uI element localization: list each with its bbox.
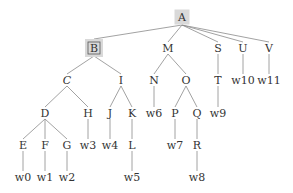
tree-edge-D-E xyxy=(23,119,45,139)
node-label: U xyxy=(238,42,247,55)
tree-node-L: L xyxy=(128,139,136,152)
tree-node-B: B xyxy=(85,39,103,57)
tree-node-J: J xyxy=(107,107,112,120)
node-label: w6 xyxy=(146,107,162,120)
tree-node-w6: w6 xyxy=(146,107,162,120)
tree-node-S: S xyxy=(214,42,222,55)
tree-edge-A-B xyxy=(94,25,182,39)
node-label: I xyxy=(119,74,123,87)
node-label: Q xyxy=(192,107,201,120)
syntax-tree-diagram: ABMSUVCINOTw10w11DHJKw6PQw9EFGw3w4Lw7Rw0… xyxy=(0,0,293,193)
node-label: D xyxy=(41,107,50,120)
node-label: R xyxy=(193,139,202,152)
node-label: w0 xyxy=(15,171,31,184)
tree-edge-A-M xyxy=(168,25,182,42)
tree-edge-C-D xyxy=(45,86,67,107)
tree-node-w7: w7 xyxy=(167,139,183,152)
tree-node-U: U xyxy=(238,42,247,55)
tree-node-R: R xyxy=(193,139,202,152)
node-label: L xyxy=(128,139,136,152)
node-label: w2 xyxy=(59,171,75,184)
tree-node-G: G xyxy=(63,139,72,152)
tree-node-w3: w3 xyxy=(80,139,96,152)
tree-node-w8: w8 xyxy=(189,171,205,184)
tree-node-w9: w9 xyxy=(210,107,226,120)
node-label: K xyxy=(128,107,137,120)
tree-edge-C-H xyxy=(67,86,88,107)
tree-node-w10: w10 xyxy=(231,74,254,87)
node-label: w10 xyxy=(231,74,254,87)
node-label: w8 xyxy=(189,171,205,184)
node-label: A xyxy=(177,11,187,24)
node-label: w7 xyxy=(167,139,183,152)
node-label: B xyxy=(90,42,98,55)
tree-edge-B-I xyxy=(94,56,121,74)
node-label: w4 xyxy=(102,139,118,152)
node-label: O xyxy=(181,74,190,87)
tree-edge-D-G xyxy=(45,119,67,139)
tree-node-w4: w4 xyxy=(102,139,118,152)
tree-node-D: D xyxy=(41,107,50,120)
tree-edge-O-P xyxy=(175,86,186,107)
node-label: C xyxy=(63,74,72,87)
node-label: T xyxy=(214,74,222,87)
tree-node-w5: w5 xyxy=(124,171,140,184)
tree-edge-M-N xyxy=(154,54,168,74)
node-label: w5 xyxy=(124,171,140,184)
tree-node-F: F xyxy=(41,139,49,152)
tree-node-Q: Q xyxy=(192,107,201,120)
tree-edge-A-V xyxy=(182,25,269,42)
node-label: E xyxy=(19,139,27,152)
tree-edge-M-O xyxy=(168,54,186,74)
tree-node-w2: w2 xyxy=(59,171,75,184)
node-label: w1 xyxy=(37,171,53,184)
tree-nodes: ABMSUVCINOTw10w11DHJKw6PQw9EFGw3w4Lw7Rw0… xyxy=(15,10,281,184)
node-label: w9 xyxy=(210,107,226,120)
node-label: N xyxy=(149,74,159,87)
tree-node-I: I xyxy=(119,74,123,87)
tree-edge-B-C xyxy=(67,56,94,74)
tree-edge-O-Q xyxy=(186,86,197,107)
node-label: M xyxy=(162,42,173,55)
tree-node-C: C xyxy=(63,74,72,87)
tree-node-A: A xyxy=(175,10,190,25)
node-label: F xyxy=(41,139,49,152)
tree-node-N: N xyxy=(149,74,159,87)
tree-edge-I-K xyxy=(121,86,132,107)
tree-node-O: O xyxy=(181,74,190,87)
tree-edge-I-J xyxy=(110,86,121,107)
tree-node-P: P xyxy=(171,107,179,120)
tree-node-T: T xyxy=(214,74,222,87)
tree-node-w11: w11 xyxy=(257,74,280,87)
node-label: P xyxy=(171,107,179,120)
node-label: w11 xyxy=(257,74,280,87)
node-label: J xyxy=(107,107,112,120)
tree-node-V: V xyxy=(264,42,274,55)
node-label: V xyxy=(264,42,274,55)
node-label: w3 xyxy=(80,139,96,152)
tree-node-K: K xyxy=(128,107,137,120)
node-label: S xyxy=(214,42,222,55)
tree-node-w1: w1 xyxy=(37,171,53,184)
tree-node-w0: w0 xyxy=(15,171,31,184)
node-label: G xyxy=(63,139,72,152)
tree-node-E: E xyxy=(19,139,27,152)
tree-node-H: H xyxy=(83,107,93,120)
tree-node-M: M xyxy=(162,42,173,55)
node-label: H xyxy=(83,107,93,120)
tree-edges xyxy=(23,25,269,171)
